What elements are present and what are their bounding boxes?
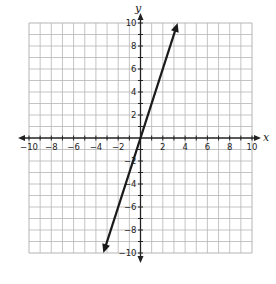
x-tick-label: 8 [227, 142, 232, 152]
y-tick-label: 2 [131, 110, 136, 120]
x-axis-right-arrow-icon [254, 135, 261, 141]
y-tick-label: 10 [126, 18, 137, 28]
line-top-arrow-icon [171, 23, 179, 33]
x-tick-label: 4 [182, 142, 187, 152]
x-tick-label: 2 [160, 142, 165, 152]
x-tick-label: −4 [90, 142, 103, 152]
x-tick-label: −2 [112, 142, 125, 152]
y-tick-label: −10 [119, 248, 137, 258]
y-tick-label: 8 [131, 41, 136, 51]
y-tick-label: 4 [131, 87, 136, 97]
x-axis-label: x [263, 131, 270, 144]
x-tick-label: −8 [45, 142, 58, 152]
line-bottom-arrow-icon [102, 243, 110, 253]
y-axis-label: y [134, 2, 142, 15]
y-axis-down-arrow-icon [138, 256, 144, 263]
y-tick-label: 6 [131, 64, 136, 74]
y-tick-label: −6 [124, 202, 137, 212]
x-tick-label: −6 [67, 142, 80, 152]
coordinate-plane: −10−8−6−4−2246810 108642−2−4−6−8−10 x y [0, 0, 276, 284]
x-axis-left-arrow-icon [18, 135, 25, 141]
x-tick-label: 6 [205, 142, 210, 152]
y-tick-label: −8 [124, 225, 137, 235]
x-tick-label: 10 [247, 142, 258, 152]
x-tick-label: −10 [20, 142, 38, 152]
